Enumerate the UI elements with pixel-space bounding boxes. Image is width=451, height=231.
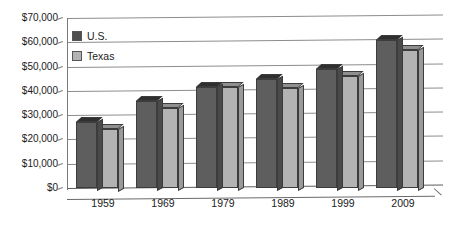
bar-side bbox=[118, 125, 124, 191]
y-axis-tick-label: $40,000 bbox=[2, 86, 58, 96]
bar-group bbox=[196, 18, 246, 188]
legend-swatch-icon-us bbox=[72, 31, 82, 41]
y-axis-tick-label: $60,000 bbox=[2, 37, 58, 47]
bar-group bbox=[256, 18, 306, 188]
bar-side bbox=[97, 119, 103, 191]
y-axis-tick-label: $50,000 bbox=[2, 62, 58, 72]
y-axis-tick-mark bbox=[57, 17, 63, 20]
legend-label-us: U.S. bbox=[87, 30, 107, 42]
x-axis-labels: 195919691979198919992009 bbox=[62, 197, 443, 217]
x-axis-tick-label: 1969 bbox=[133, 197, 193, 209]
legend-item-texas: Texas bbox=[72, 48, 114, 63]
bar-face bbox=[376, 40, 397, 188]
bar-side bbox=[157, 97, 163, 191]
bar-group bbox=[376, 18, 426, 188]
bar-side bbox=[358, 73, 364, 191]
y-axis-tick-mark bbox=[57, 187, 63, 190]
bar-side bbox=[337, 66, 343, 191]
bar-face bbox=[316, 69, 337, 188]
y-axis-tick-label: $30,000 bbox=[2, 110, 58, 120]
x-axis-tick-label: 1959 bbox=[73, 197, 133, 209]
bar-side bbox=[418, 46, 424, 191]
bar-side bbox=[178, 105, 184, 191]
bar-face bbox=[196, 87, 217, 188]
bar-side bbox=[397, 37, 403, 191]
floor-side-edge bbox=[434, 188, 442, 195]
x-axis-tick-label: 1979 bbox=[193, 197, 253, 209]
legend-item-us: U.S. bbox=[72, 28, 114, 43]
legend: U.S. Texas bbox=[72, 28, 114, 68]
bar-side bbox=[238, 84, 244, 191]
legend-swatch-icon-texas bbox=[72, 51, 82, 61]
x-axis-tick-label: 2009 bbox=[373, 197, 433, 209]
y-axis-tick-label: $10,000 bbox=[2, 159, 58, 169]
y-axis-tick-mark bbox=[57, 90, 63, 93]
y-axis-tick-mark bbox=[57, 114, 63, 117]
y-axis-tick-label: $20,000 bbox=[2, 134, 58, 144]
x-axis-tick-label: 1999 bbox=[313, 197, 373, 209]
bar-group bbox=[136, 18, 186, 188]
y-axis-tick-label: $70,000 bbox=[2, 13, 58, 23]
bar-face bbox=[136, 101, 157, 188]
bar-group bbox=[316, 18, 366, 188]
bar-side bbox=[298, 85, 304, 191]
y-axis-tick-label: $0 bbox=[2, 183, 58, 193]
bar-chart: $0$10,000$20,000$30,000$40,000$50,000$60… bbox=[0, 0, 451, 231]
bar-face bbox=[256, 79, 277, 188]
bar-side bbox=[277, 76, 283, 191]
bar-side bbox=[217, 84, 223, 191]
legend-label-texas: Texas bbox=[87, 50, 114, 62]
x-axis-tick-label: 1989 bbox=[253, 197, 313, 209]
plot-area bbox=[62, 18, 443, 190]
bar-face bbox=[76, 122, 97, 188]
y-axis-labels: $0$10,000$20,000$30,000$40,000$50,000$60… bbox=[0, 18, 58, 190]
